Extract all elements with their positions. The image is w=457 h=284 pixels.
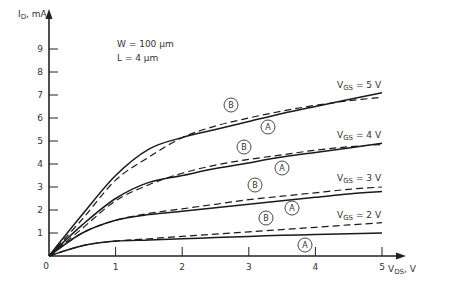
y-tick-label: 9 — [37, 44, 43, 54]
x-tick-label: 4 — [313, 262, 319, 272]
curve-v-gs-4-v-b — [49, 144, 382, 256]
curve-v-gs-5-v-a — [49, 93, 382, 256]
svg-text:B: B — [241, 143, 247, 152]
x-ticks: 12345 — [113, 247, 385, 272]
curve-label-vgs-5: VGS = 5 V — [337, 80, 382, 92]
y-tick-label: 1 — [37, 228, 43, 238]
y-axis-label: ID, mA — [18, 9, 48, 21]
curve-v-gs-3-v-b — [49, 187, 382, 256]
svg-text:A: A — [279, 164, 285, 173]
svg-text:B: B — [263, 214, 269, 223]
x-tick-label: 2 — [179, 262, 185, 272]
x-tick-label: 3 — [246, 262, 252, 272]
origin-label: 0 — [43, 261, 49, 271]
svg-text:A: A — [265, 123, 271, 132]
marker-b-vgs-5: B — [224, 98, 238, 112]
length-annotation: L = 4 μm — [117, 53, 158, 63]
curve-v-gs-5-v-b — [49, 97, 382, 256]
y-tick-label: 3 — [37, 182, 43, 192]
svg-text:B: B — [228, 101, 234, 110]
y-tick-label: 4 — [37, 159, 43, 169]
marker-b-vgs-4: B — [237, 140, 251, 154]
marker-a-vgs-5: A — [261, 120, 275, 134]
svg-text:A: A — [289, 204, 295, 213]
marker-a-vgs-2: A — [298, 238, 312, 252]
curve-label-vgs-3: VGS = 3 V — [337, 173, 382, 185]
y-ticks: 123456789 — [37, 44, 58, 238]
curve-label-vgs-2: VGS = 2 V — [337, 210, 382, 222]
curves — [49, 93, 382, 256]
x-tick-label: 5 — [379, 262, 385, 272]
width-annotation: W = 100 μm — [117, 39, 174, 49]
x-axis-arrow-icon — [396, 253, 406, 260]
y-tick-label: 8 — [37, 67, 43, 77]
curve-v-gs-4-v-a — [49, 143, 382, 256]
svg-text:B: B — [252, 181, 258, 190]
curve-v-gs-2-v-a — [49, 233, 382, 256]
curve-label-vgs-4: VGS = 4 V — [337, 130, 382, 142]
y-tick-label: 2 — [37, 205, 43, 215]
iv-characteristics-chart: 123456789 12345 ID, mA VDS, V 0 W = 100 … — [0, 0, 457, 284]
y-tick-label: 5 — [37, 136, 43, 146]
x-axis-label: VDS, V — [388, 264, 417, 276]
curve-v-gs-3-v-a — [49, 192, 382, 256]
marker-a-vgs-4: A — [275, 161, 289, 175]
marker-a-vgs-3: A — [285, 201, 299, 215]
svg-text:A: A — [302, 241, 308, 250]
marker-b-vgs-3: B — [248, 178, 262, 192]
x-tick-label: 1 — [113, 262, 119, 272]
y-tick-label: 6 — [37, 113, 43, 123]
marker-b-vgs-2: B — [259, 211, 273, 225]
y-tick-label: 7 — [37, 90, 43, 100]
curve-v-gs-2-v-b — [49, 223, 382, 256]
